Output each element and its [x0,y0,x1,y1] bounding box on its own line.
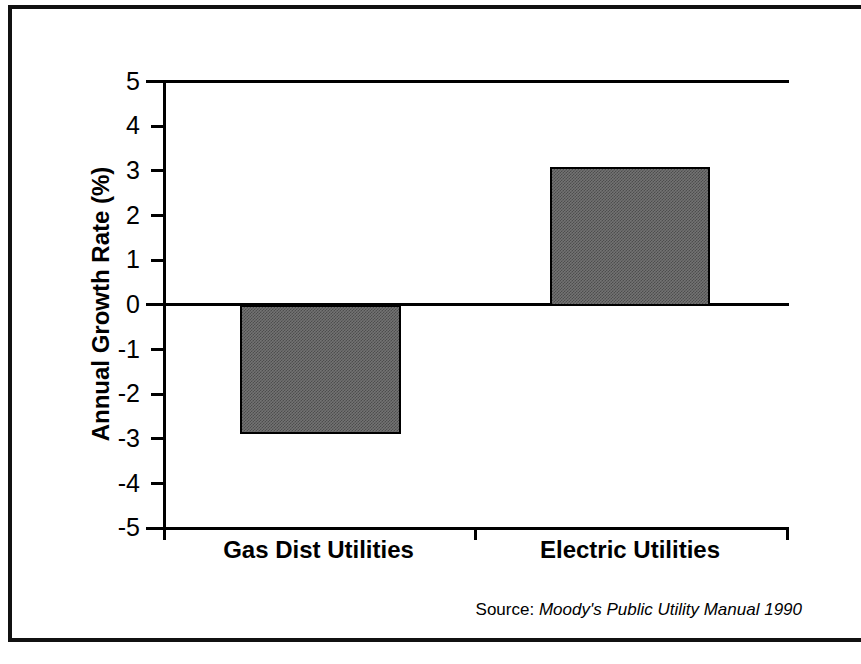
source-note: Source: Moody's Public Utility Manual 19… [0,600,802,620]
bar-chart: 5 4 3 2 1 0 -1 -2 -3 -4 -5 [0,0,861,664]
y-tick-label-minus4: -4 [102,471,140,496]
y-tick-label-5: 5 [102,69,140,94]
y-tick-mark-2 [151,214,163,217]
y-tick-mark-m3 [151,437,163,440]
x-category-label-gas: Gas Dist Utilities [163,536,474,564]
y-tick-mark-m4 [151,482,163,485]
y-axis-title: Annual Growth Rate (%) [87,139,115,469]
y-tick-label-4: 4 [102,113,140,138]
y-tick-mark-5 [146,80,166,83]
source-title-label: Moody's Public Utility Manual 1990 [539,600,802,619]
y-tick-mark-m2 [151,393,163,396]
y-tick-mark-4 [151,125,163,128]
x-category-label-electric: Electric Utilities [474,536,786,564]
y-tick-mark-0 [146,303,166,306]
figure-page: 5 4 3 2 1 0 -1 -2 -3 -4 -5 [0,0,861,664]
bar-gas-dist-utilities[interactable] [240,305,401,434]
x-tick-mark-right [786,527,789,540]
source-prefix-label: Source: [476,600,535,619]
y-tick-mark-3 [151,169,163,172]
y-tick-mark-m1 [151,348,163,351]
y-tick-mark-1 [151,259,163,262]
y-tick-label-minus5: -5 [102,515,140,540]
plot-top-border [163,80,789,83]
bar-electric-utilities[interactable] [550,167,710,306]
